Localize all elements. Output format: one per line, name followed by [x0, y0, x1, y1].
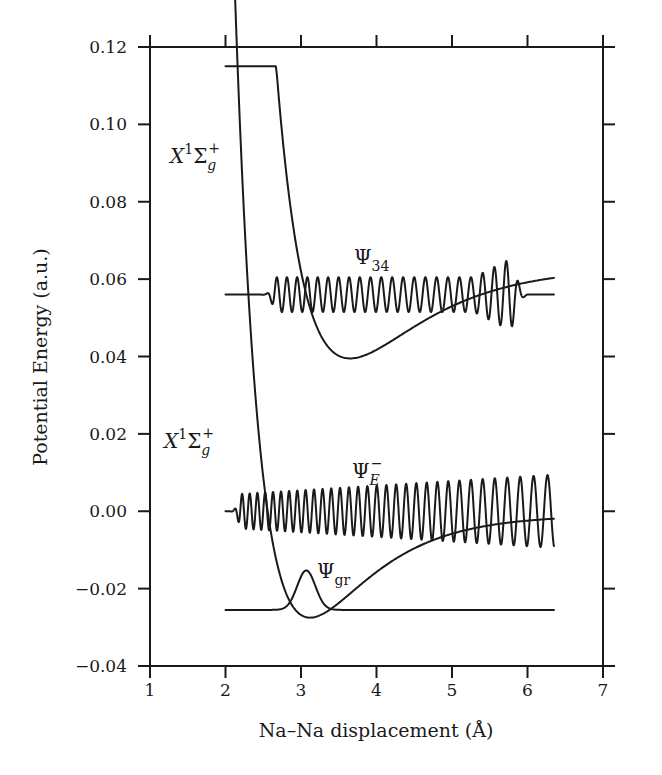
plot-curves	[226, 0, 554, 618]
x-tick-label: 1	[145, 680, 156, 700]
psi-gr-wavefunction	[226, 570, 554, 609]
y-tick-label: 0.06	[89, 269, 127, 289]
y-tick-label: 0.00	[89, 501, 127, 521]
x-axis-ticks	[150, 35, 603, 678]
x-tick-label: 4	[371, 680, 382, 700]
x-tick-label: 2	[220, 680, 231, 700]
y-tick-label: −0.02	[75, 579, 127, 599]
y-tick-label: 0.04	[89, 347, 127, 367]
psi-34-wavefunction	[226, 261, 554, 326]
psi-34-label: Ψ34	[354, 245, 389, 274]
y-tick-labels: 0.12 0.10 0.08 0.06 0.04 0.02 0.00 −0.02…	[75, 37, 127, 676]
plot-frame	[138, 35, 615, 678]
x-tick-labels: 1 2 3 4 5 6 7	[145, 680, 609, 700]
svg-text:X1Σg+: X1Σg+	[162, 425, 214, 458]
y-tick-label: 0.12	[89, 37, 127, 57]
y-tick-label: 0.08	[89, 192, 127, 212]
svg-text:X1Σg+: X1Σg+	[168, 140, 220, 173]
x-tick-label: 3	[296, 680, 307, 700]
y-axis-title: Potential Energy (a.u.)	[29, 248, 51, 466]
svg-text:ΨE−: ΨE−	[352, 455, 383, 488]
upper-potential-curve	[226, 66, 554, 358]
x-tick-label: 5	[447, 680, 458, 700]
psi-E-minus-wavefunction	[226, 475, 554, 547]
psi-E-label: ΨE−	[352, 455, 383, 488]
y-tick-label: 0.02	[89, 424, 127, 444]
svg-text:Ψgr: Ψgr	[317, 559, 351, 588]
lower-state-label: X1Σg+	[162, 425, 214, 458]
x-tick-label: 7	[598, 680, 609, 700]
y-tick-label: −0.04	[75, 656, 127, 676]
upper-state-label: X1Σg+	[168, 140, 220, 173]
x-tick-label: 6	[522, 680, 533, 700]
svg-text:Ψ34: Ψ34	[354, 245, 389, 274]
psi-gr-label: Ψgr	[317, 559, 351, 588]
x-axis-title: Na–Na displacement (Å)	[259, 719, 494, 741]
potential-energy-chart: 1 2 3 4 5 6 7 0.12 0.10 0.08 0.06 0.04 0…	[0, 0, 662, 775]
y-tick-label: 0.10	[89, 114, 127, 134]
